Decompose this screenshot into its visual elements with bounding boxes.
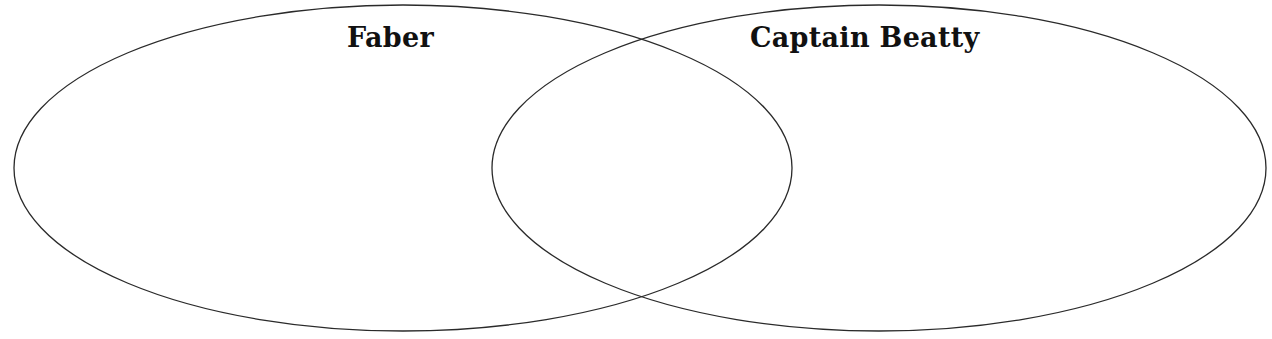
set-label-faber: Faber: [347, 24, 434, 51]
venn-diagram: [0, 0, 1272, 339]
set-label-captain-beatty: Captain Beatty: [750, 24, 979, 51]
venn-circle-faber: [14, 5, 792, 331]
venn-circle-captain-beatty: [492, 5, 1266, 331]
